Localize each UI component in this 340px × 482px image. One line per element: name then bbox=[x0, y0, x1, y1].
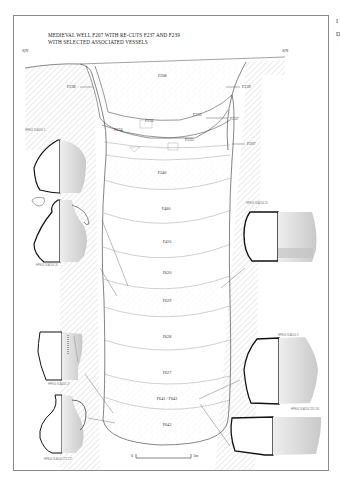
vessel-lower-right-1: HPE04 SLA204 3 HPE04 SLA204 233 244 bbox=[244, 333, 320, 411]
label-f239: F239 bbox=[242, 84, 251, 89]
svg-text:1m: 1m bbox=[193, 453, 199, 458]
label-f235: F235 bbox=[185, 137, 194, 142]
label-f233: F233 bbox=[193, 112, 202, 117]
layer-label: F627 bbox=[163, 370, 172, 375]
vessel-lower-right-2 bbox=[231, 417, 321, 455]
layer-label: F641 / F642 bbox=[157, 396, 177, 401]
layer-label: F410 bbox=[163, 239, 172, 244]
section-marker-left: S|N bbox=[22, 48, 28, 53]
vessel-lower-left-1: HPE04 SLA204 27 bbox=[38, 332, 83, 386]
well-section-drawing: S|N S|N F208 F238 F239 F233 F232 F237 F2… bbox=[0, 0, 340, 482]
svg-text:HPE04 SLA204 24: HPE04 SLA204 24 bbox=[246, 201, 268, 205]
svg-text:HPE04 SLA204 5: HPE04 SLA204 5 bbox=[25, 128, 46, 132]
label-f234: F234 bbox=[114, 127, 124, 132]
layer-label: F628 bbox=[163, 334, 172, 339]
label-f232: F232 bbox=[145, 118, 154, 123]
layer-label: F620 bbox=[163, 270, 172, 275]
svg-text:HPE04 SLA204 3: HPE04 SLA204 3 bbox=[278, 333, 299, 337]
layer-label: F629 bbox=[163, 298, 172, 303]
layer-label: F643 bbox=[163, 422, 172, 427]
label-f238: F238 bbox=[67, 84, 76, 89]
svg-text:HPE04 SLA204 273 272: HPE04 SLA204 273 272 bbox=[44, 457, 73, 461]
label-f208: F208 bbox=[158, 73, 167, 78]
scale-bar: 0 1m bbox=[131, 453, 199, 458]
label-f237: F237 bbox=[230, 116, 239, 121]
svg-text:HPE04 SLA204 27: HPE04 SLA204 27 bbox=[48, 382, 70, 386]
label-f207: F207 bbox=[247, 141, 256, 146]
section-marker-right: S|N bbox=[282, 48, 288, 53]
layer-label: F400 bbox=[162, 206, 171, 211]
layer-label: F240 bbox=[158, 170, 167, 175]
svg-text:HPE04 SLA204 233 244: HPE04 SLA204 233 244 bbox=[291, 407, 320, 411]
svg-text:HPE04 SLA204 26: HPE04 SLA204 26 bbox=[36, 263, 58, 267]
svg-text:0: 0 bbox=[131, 453, 133, 458]
